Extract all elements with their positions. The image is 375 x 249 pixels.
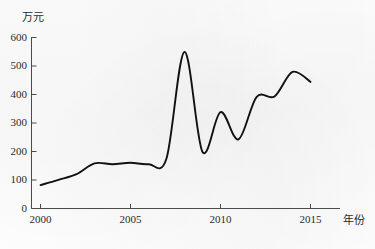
y-axis-title: 万元 bbox=[22, 11, 44, 23]
x-tick-label-2005: 2005 bbox=[120, 213, 143, 225]
x-tick-labels: 2000 2005 2010 2015 bbox=[30, 213, 323, 225]
y-tick-marks bbox=[32, 38, 37, 209]
chart-page: 万元 600 500 400 300 200 100 0 bbox=[0, 0, 375, 249]
y-tick-label-0: 0 bbox=[22, 202, 28, 214]
y-tick-label-600: 600 bbox=[11, 31, 28, 43]
y-tick-label-500: 500 bbox=[11, 59, 28, 71]
x-tick-label-2000: 2000 bbox=[30, 213, 53, 225]
data-series-line bbox=[41, 52, 311, 185]
y-tick-label-100: 100 bbox=[11, 173, 28, 185]
y-tick-label-300: 300 bbox=[11, 116, 28, 128]
y-tick-labels: 600 500 400 300 200 100 0 bbox=[11, 31, 28, 214]
x-tick-label-2015: 2015 bbox=[300, 213, 323, 225]
y-tick-label-200: 200 bbox=[11, 145, 28, 157]
x-tick-marks bbox=[41, 204, 311, 209]
x-tick-label-2010: 2010 bbox=[210, 213, 233, 225]
x-axis-title: 年份 bbox=[343, 213, 365, 226]
line-chart: 万元 600 500 400 300 200 100 0 bbox=[0, 0, 375, 249]
y-tick-label-400: 400 bbox=[11, 88, 28, 100]
